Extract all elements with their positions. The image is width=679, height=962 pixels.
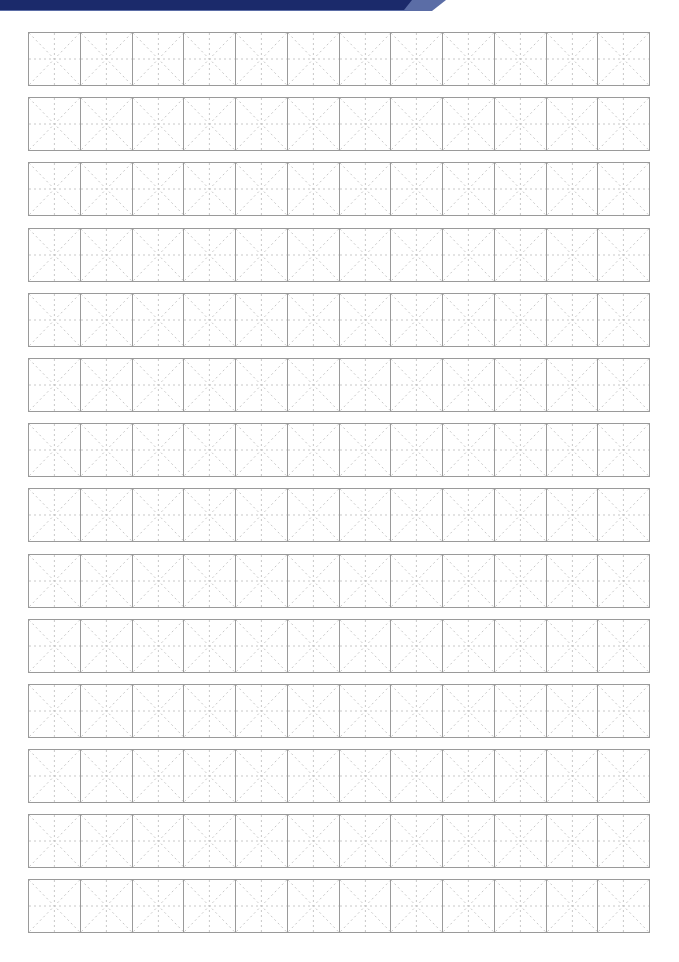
grid-cell xyxy=(340,880,392,932)
mi-zi-ge-guides xyxy=(391,294,442,346)
mi-zi-ge-guides xyxy=(236,685,287,737)
mi-zi-ge-guides xyxy=(133,815,184,867)
grid-cell xyxy=(495,555,547,607)
mi-zi-ge-guides xyxy=(236,620,287,672)
mi-zi-ge-guides xyxy=(288,98,339,150)
grid-cell xyxy=(391,163,443,215)
grid-row xyxy=(28,488,650,542)
mi-zi-ge-guides xyxy=(443,685,494,737)
mi-zi-ge-guides xyxy=(443,750,494,802)
grid-cell xyxy=(547,489,599,541)
mi-zi-ge-guides xyxy=(391,620,442,672)
mi-zi-ge-guides xyxy=(29,33,80,85)
grid-cell xyxy=(236,229,288,281)
grid-cell xyxy=(236,489,288,541)
mi-zi-ge-guides xyxy=(598,294,649,346)
grid-cell xyxy=(236,98,288,150)
grid-cell xyxy=(133,98,185,150)
mi-zi-ge-guides xyxy=(340,424,391,476)
mi-zi-ge-guides xyxy=(495,229,546,281)
grid-cell xyxy=(340,33,392,85)
mi-zi-ge-guides xyxy=(495,33,546,85)
grid-cell xyxy=(443,229,495,281)
grid-cell xyxy=(288,620,340,672)
grid-cell xyxy=(391,359,443,411)
grid-cell xyxy=(391,98,443,150)
grid-cell xyxy=(391,489,443,541)
mi-zi-ge-guides xyxy=(340,880,391,932)
mi-zi-ge-guides xyxy=(81,685,132,737)
mi-zi-ge-guides xyxy=(29,424,80,476)
grid-cell xyxy=(547,229,599,281)
grid-cell xyxy=(81,489,133,541)
grid-cell xyxy=(133,685,185,737)
mi-zi-ge-guides xyxy=(236,815,287,867)
mi-zi-ge-guides xyxy=(495,294,546,346)
mi-zi-ge-guides xyxy=(495,359,546,411)
grid-cell xyxy=(391,880,443,932)
grid-cell xyxy=(598,880,649,932)
mi-zi-ge-guides xyxy=(236,359,287,411)
mi-zi-ge-guides xyxy=(184,750,235,802)
grid-cell xyxy=(340,489,392,541)
grid-cell xyxy=(340,555,392,607)
mi-zi-ge-guides xyxy=(29,98,80,150)
grid-cell xyxy=(288,555,340,607)
grid-cell xyxy=(495,294,547,346)
mi-zi-ge-guides xyxy=(133,359,184,411)
grid-cell xyxy=(133,424,185,476)
mi-zi-ge-guides xyxy=(288,359,339,411)
mi-zi-ge-guides xyxy=(236,33,287,85)
grid-cell xyxy=(236,33,288,85)
grid-cell xyxy=(598,98,649,150)
mi-zi-ge-guides xyxy=(340,163,391,215)
grid-cell xyxy=(236,880,288,932)
grid-cell xyxy=(288,294,340,346)
grid-cell xyxy=(288,33,340,85)
grid-cell xyxy=(495,880,547,932)
mi-zi-ge-guides xyxy=(288,229,339,281)
mi-zi-ge-guides xyxy=(443,163,494,215)
grid-cell xyxy=(495,33,547,85)
grid-cell xyxy=(133,359,185,411)
grid-cell xyxy=(495,489,547,541)
mi-zi-ge-guides xyxy=(236,750,287,802)
practice-grid xyxy=(28,32,650,945)
grid-cell xyxy=(29,489,81,541)
mi-zi-ge-guides xyxy=(443,294,494,346)
grid-cell xyxy=(443,98,495,150)
mi-zi-ge-guides xyxy=(81,98,132,150)
mi-zi-ge-guides xyxy=(598,33,649,85)
grid-cell xyxy=(443,750,495,802)
grid-cell xyxy=(547,163,599,215)
grid-cell xyxy=(391,685,443,737)
mi-zi-ge-guides xyxy=(184,815,235,867)
grid-cell xyxy=(443,163,495,215)
grid-cell xyxy=(184,98,236,150)
grid-row xyxy=(28,293,650,347)
grid-cell xyxy=(184,359,236,411)
grid-cell xyxy=(81,98,133,150)
mi-zi-ge-guides xyxy=(29,880,80,932)
grid-cell xyxy=(340,750,392,802)
mi-zi-ge-guides xyxy=(236,98,287,150)
grid-cell xyxy=(340,685,392,737)
grid-cell xyxy=(133,750,185,802)
mi-zi-ge-guides xyxy=(29,555,80,607)
mi-zi-ge-guides xyxy=(598,815,649,867)
grid-cell xyxy=(547,294,599,346)
grid-cell xyxy=(598,489,649,541)
grid-cell xyxy=(288,815,340,867)
grid-cell xyxy=(81,424,133,476)
mi-zi-ge-guides xyxy=(133,163,184,215)
mi-zi-ge-guides xyxy=(547,359,598,411)
mi-zi-ge-guides xyxy=(547,33,598,85)
mi-zi-ge-guides xyxy=(598,359,649,411)
grid-cell xyxy=(547,359,599,411)
grid-cell xyxy=(29,294,81,346)
mi-zi-ge-guides xyxy=(391,33,442,85)
grid-cell xyxy=(81,163,133,215)
grid-cell xyxy=(443,33,495,85)
mi-zi-ge-guides xyxy=(29,815,80,867)
mi-zi-ge-guides xyxy=(81,33,132,85)
